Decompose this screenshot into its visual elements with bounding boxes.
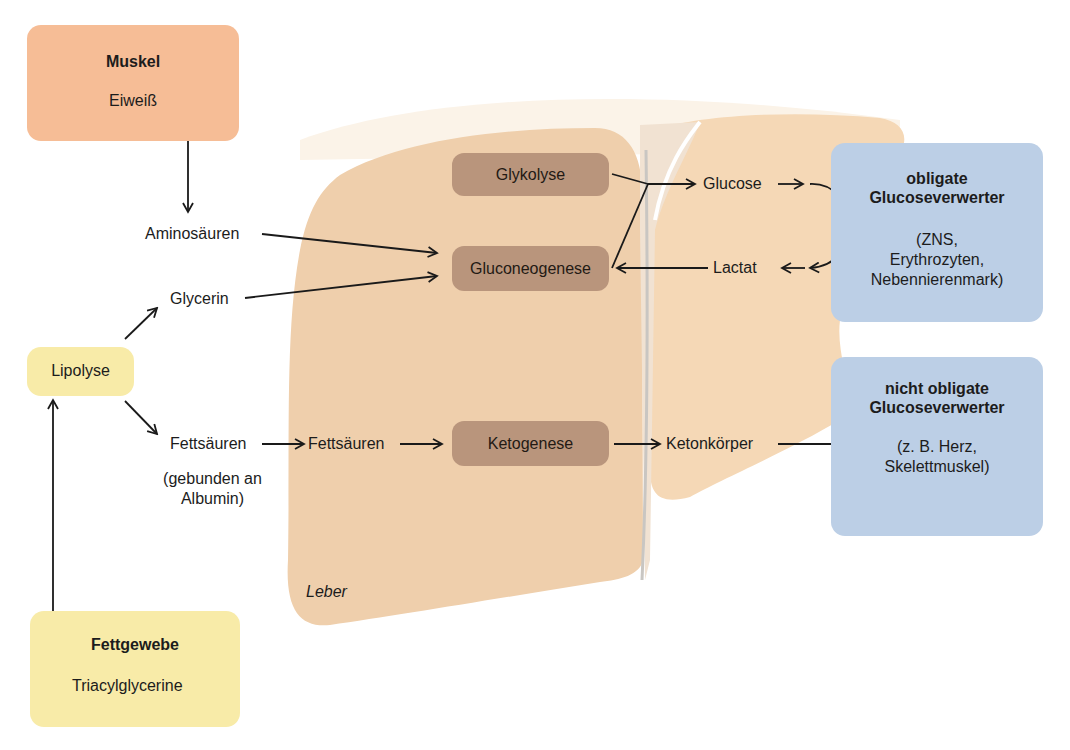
ketonkoerper-label: Ketonkörper bbox=[666, 434, 753, 453]
metabolism-diagram: Muskel Eiweiß Fettgewebe Triacylglycerin… bbox=[0, 0, 1070, 750]
nicht-obligate-title-line1: nicht obligate bbox=[831, 379, 1043, 398]
nicht-obligate-glucoseverwerter-box: nicht obligate Glucoseverwerter (z. B. H… bbox=[831, 357, 1043, 536]
glykolyse-label: Glykolyse bbox=[496, 166, 565, 184]
gluconeogenese-label: Gluconeogenese bbox=[470, 260, 591, 278]
eiweiss-label: Eiweiß bbox=[109, 91, 157, 110]
lipolyse-label: Lipolyse bbox=[27, 361, 134, 380]
arrow-lipolyse-glycerin bbox=[125, 308, 157, 339]
fettgewebe-title: Fettgewebe bbox=[30, 635, 240, 654]
fettsaeuren-blood-label: Fettsäuren bbox=[170, 434, 246, 453]
triacylglycerine-label: Triacylglycerine bbox=[72, 676, 183, 695]
obligate-title-line1: obligate bbox=[831, 169, 1043, 188]
nicht-obligate-title-line2: Glucoseverwerter bbox=[831, 398, 1043, 417]
leber-label: Leber bbox=[306, 582, 347, 601]
obligate-detail-line1: (ZNS, bbox=[831, 230, 1043, 249]
glycerin-label: Glycerin bbox=[170, 289, 229, 308]
obligate-title-line2: Glucoseverwerter bbox=[831, 188, 1043, 207]
liver-left-lobe bbox=[288, 128, 643, 625]
nicht-obligate-detail-line2: Skelettmuskel) bbox=[831, 457, 1043, 476]
glykolyse-box: Glykolyse bbox=[452, 153, 609, 196]
fettgewebe-box: Fettgewebe Triacylglycerine bbox=[30, 611, 240, 727]
gluconeogenese-box: Gluconeogenese bbox=[452, 246, 609, 291]
muskel-title: Muskel bbox=[27, 52, 239, 71]
arrow-lipolyse-fettsaeuren bbox=[125, 401, 157, 434]
fettsaeuren-liver-label: Fettsäuren bbox=[308, 434, 384, 453]
ketogenese-box: Ketogenese bbox=[452, 421, 609, 466]
fettsaeuren-note-line1: (gebunden an bbox=[150, 469, 275, 488]
lactat-label: Lactat bbox=[713, 258, 757, 277]
ketogenese-label: Ketogenese bbox=[488, 435, 573, 453]
nicht-obligate-detail-line1: (z. B. Herz, bbox=[831, 437, 1043, 456]
aminosaeuren-label: Aminosäuren bbox=[145, 224, 239, 243]
lipolyse-box: Lipolyse bbox=[27, 347, 134, 396]
obligate-glucoseverwerter-box: obligate Glucoseverwerter (ZNS, Erythroz… bbox=[831, 143, 1043, 322]
fettsaeuren-note-line2: Albumin) bbox=[150, 489, 275, 508]
muskel-box: Muskel Eiweiß bbox=[27, 25, 239, 141]
obligate-detail-line2: Erythrozyten, bbox=[831, 250, 1043, 269]
glucose-label: Glucose bbox=[703, 174, 762, 193]
obligate-detail-line3: Nebennierenmark) bbox=[831, 270, 1043, 289]
